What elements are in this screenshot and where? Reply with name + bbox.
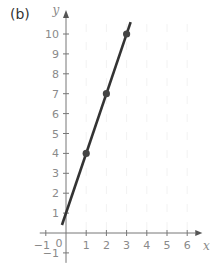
y-tick-label: −1 [43, 247, 59, 260]
y-tick-label: 9 [52, 48, 59, 61]
x-tick-label: 5 [164, 239, 171, 252]
y-tick-label: 3 [52, 167, 59, 180]
data-line [62, 22, 131, 225]
data-point [103, 90, 110, 97]
x-tick-label: 2 [103, 239, 110, 252]
data-point [83, 150, 90, 157]
x-tick-label: 6 [184, 239, 191, 252]
x-tick-label: 1 [83, 239, 90, 252]
y-tick-label: 5 [52, 128, 59, 141]
y-tick-label: 1 [52, 207, 59, 220]
y-tick-label: 4 [52, 147, 59, 160]
x-tick-label: 4 [143, 239, 150, 252]
data-point [123, 30, 130, 37]
y-tick-label: 8 [52, 68, 59, 81]
x-tick-label: 3 [123, 239, 130, 252]
line-chart: −11234560−112345678910xy [0, 0, 220, 270]
y-tick-label: 2 [52, 187, 59, 200]
x-axis-title: x [203, 239, 210, 253]
chart-container: (b) −11234560−112345678910xy [0, 0, 220, 270]
y-tick-label: 7 [52, 88, 59, 101]
y-axis-arrow-icon [63, 10, 69, 18]
y-axis-title: y [52, 3, 60, 17]
y-tick-label: 6 [52, 108, 59, 121]
x-axis-arrow-icon [195, 230, 202, 236]
y-tick-label: 10 [45, 28, 59, 41]
